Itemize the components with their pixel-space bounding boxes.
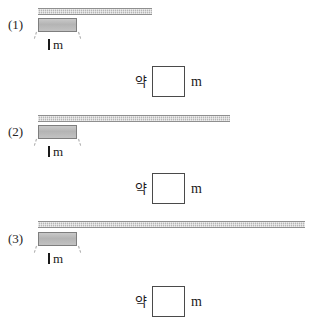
unit-label-1: m xyxy=(48,38,63,51)
bracket-tick-left-icon xyxy=(34,246,37,253)
unit-label-unit-3: m xyxy=(53,251,63,266)
answer-prefix-1: 약 xyxy=(135,75,147,88)
unit-block-1 xyxy=(38,18,77,32)
measured-bar-3 xyxy=(38,221,305,228)
unit-value-glyph xyxy=(48,253,50,264)
bracket-tick-right-icon xyxy=(78,246,81,253)
problem-number-1: (1) xyxy=(8,18,23,31)
problem-number-2: (2) xyxy=(8,125,23,138)
unit-label-unit-1: m xyxy=(53,37,63,52)
answer-unit-3: m xyxy=(191,295,202,309)
bracket-tick-right-icon xyxy=(78,32,81,39)
answer-prefix-2: 약 xyxy=(135,182,147,195)
answer-unit-1: m xyxy=(191,75,202,89)
unit-value-glyph xyxy=(48,146,50,157)
unit-label-3: m xyxy=(48,252,63,265)
answer-box-2[interactable] xyxy=(152,173,185,204)
measured-bar-2 xyxy=(38,115,230,122)
answer-row-1: 약 m xyxy=(135,66,202,97)
unit-label-2: m xyxy=(48,145,63,158)
unit-block-3 xyxy=(38,232,77,246)
bracket-tick-left-icon xyxy=(34,139,37,146)
unit-block-2 xyxy=(38,125,77,139)
answer-row-3: 약 m xyxy=(135,286,202,317)
problem-number-3: (3) xyxy=(8,232,23,245)
answer-box-3[interactable] xyxy=(152,286,185,317)
unit-value-glyph xyxy=(48,39,50,50)
bracket-tick-left-icon xyxy=(34,32,37,39)
unit-label-unit-2: m xyxy=(53,144,63,159)
bracket-tick-right-icon xyxy=(78,139,81,146)
answer-row-2: 약 m xyxy=(135,173,202,204)
answer-box-1[interactable] xyxy=(152,66,185,97)
measured-bar-1 xyxy=(38,8,152,15)
answer-unit-2: m xyxy=(191,182,202,196)
answer-prefix-3: 약 xyxy=(135,295,147,308)
